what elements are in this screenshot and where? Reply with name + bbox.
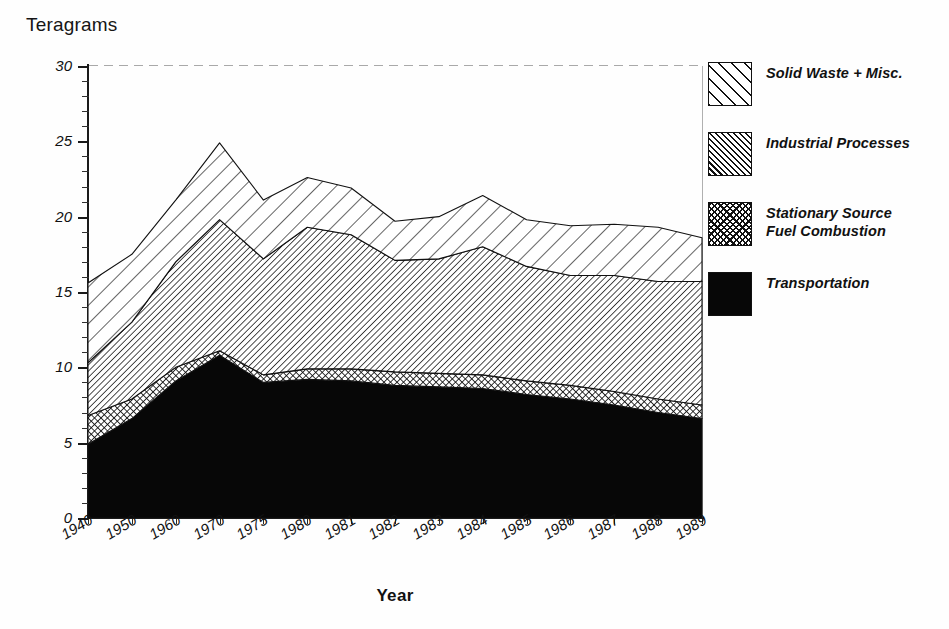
legend-item[interactable]: Solid Waste + Misc. xyxy=(708,60,944,108)
dense-diagonal-hatch-swatch-icon xyxy=(708,132,752,176)
y-tick-label: 25 xyxy=(32,132,72,149)
legend-item[interactable]: Stationary Source Fuel Combustion xyxy=(708,200,944,248)
y-tick-label: 10 xyxy=(32,358,72,375)
chart-root: Teragrams 051015202530 xyxy=(0,0,949,629)
y-tick-label: 20 xyxy=(32,208,72,225)
checkerboard-swatch-icon xyxy=(708,202,752,246)
y-tick-label: 15 xyxy=(32,283,72,300)
y-tick-label: 30 xyxy=(32,57,72,74)
y-tick-label: 5 xyxy=(32,434,72,451)
legend-item-label: Solid Waste + Misc. xyxy=(766,64,903,82)
legend-item[interactable]: Industrial Processes xyxy=(708,130,944,178)
x-axis-title: Year xyxy=(0,586,790,606)
legend-item-label: Transportation xyxy=(766,274,869,292)
legend-item[interactable]: Transportation xyxy=(708,270,944,318)
chart-legend: Solid Waste + Misc.Industrial ProcessesS… xyxy=(708,60,944,340)
legend-item-label: Industrial Processes xyxy=(766,134,910,152)
stacked-area-svg xyxy=(88,66,703,518)
legend-item-label: Stationary Source Fuel Combustion xyxy=(766,204,892,240)
wide-diagonal-hatch-swatch-icon xyxy=(708,62,752,106)
solid-black-swatch-icon xyxy=(708,272,752,316)
plot-area xyxy=(88,66,703,518)
